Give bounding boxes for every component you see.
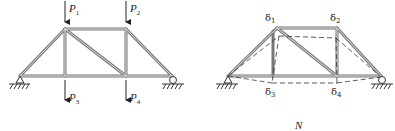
load-label-p3: P3	[68, 91, 80, 106]
load-label-p2: P2	[129, 2, 141, 17]
right-truss	[228, 28, 381, 76]
roller-support-icon	[162, 77, 184, 90]
truss-figure: P1 P2 P3 P4	[0, 0, 395, 131]
load-label-p1: P1	[68, 2, 80, 17]
deflection-label-d3: δ3	[265, 86, 276, 99]
deflection-label-d4: δ4	[331, 86, 342, 99]
deflection-label-d2: δ2	[330, 12, 341, 25]
roller-support-icon	[371, 77, 393, 90]
figure-caption: N	[294, 119, 303, 131]
pin-support-icon	[9, 76, 30, 89]
load-arrows	[65, 1, 126, 100]
load-label-p4: P4	[129, 91, 141, 106]
deflection-label-d1: δ1	[265, 12, 276, 25]
pin-support-icon	[216, 76, 238, 89]
